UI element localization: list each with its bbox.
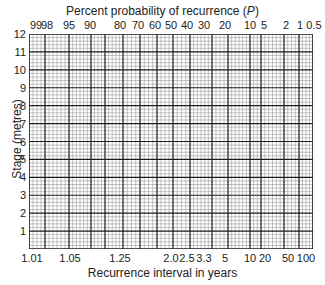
y-tick-label: 12 bbox=[12, 29, 26, 40]
top-tick-label: 2 bbox=[283, 20, 289, 31]
probability-grid bbox=[29, 34, 313, 249]
bottom-tick-label: 5 bbox=[222, 253, 228, 264]
top-tick-label: 80 bbox=[114, 20, 126, 31]
bottom-tick-label: 100 bbox=[297, 253, 315, 264]
top-tick-label: 40 bbox=[181, 20, 193, 31]
top-tick-label: 60 bbox=[149, 20, 161, 31]
bottom-tick-label: 2.5 bbox=[179, 253, 194, 264]
top-tick-label: 95 bbox=[63, 20, 75, 31]
y-tick-label: 9 bbox=[12, 82, 26, 93]
top-tick-label: 50 bbox=[165, 20, 177, 31]
bottom-tick-label: 3.3 bbox=[196, 253, 211, 264]
bottom-tick-label: 1.25 bbox=[109, 253, 130, 264]
top-tick-label: 98 bbox=[41, 20, 53, 31]
top-tick-label: 20 bbox=[219, 20, 231, 31]
top-tick-label: 0.5 bbox=[306, 20, 321, 31]
top-tick-label: 90 bbox=[84, 20, 96, 31]
y-tick-label: 2 bbox=[12, 208, 26, 219]
y-tick-label: 11 bbox=[12, 46, 26, 57]
top-tick-label: 1 bbox=[297, 20, 303, 31]
top-tick-label: 5 bbox=[261, 20, 267, 31]
top-tick-label: 10 bbox=[244, 20, 256, 31]
bottom-tick-label: 2.0 bbox=[163, 253, 178, 264]
top-tick-label: 30 bbox=[198, 20, 210, 31]
top-axis-title: Percent probability of recurrence (P) bbox=[0, 4, 325, 18]
y-tick-label: 10 bbox=[12, 64, 26, 75]
bottom-tick-label: 10 bbox=[244, 253, 256, 264]
bottom-tick-label: 20 bbox=[259, 253, 271, 264]
y-axis-label: Stage (metres) bbox=[10, 94, 24, 184]
y-tick-label: 3 bbox=[12, 190, 26, 201]
y-tick-label: 1 bbox=[12, 226, 26, 237]
top-tick-label: 70 bbox=[132, 20, 144, 31]
bottom-tick-label: 1.05 bbox=[59, 253, 80, 264]
bottom-tick-label: 50 bbox=[282, 253, 294, 264]
top-axis-title-variable: P bbox=[247, 4, 255, 18]
bottom-tick-label: 1.01 bbox=[21, 253, 42, 264]
top-axis-title-text: Percent probability of recurrence ( bbox=[66, 4, 247, 18]
top-axis-title-end: ) bbox=[255, 4, 259, 18]
x-axis-label: Recurrence interval in years bbox=[0, 266, 325, 280]
